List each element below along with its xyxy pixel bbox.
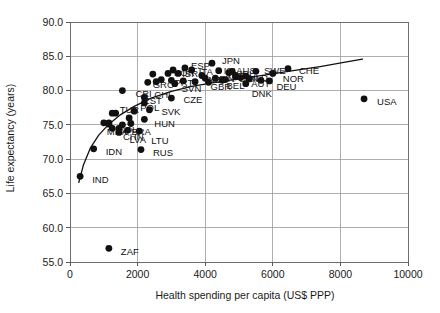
- data-point: [146, 106, 153, 113]
- data-point-label: DNK: [252, 88, 273, 99]
- data-point: [77, 173, 84, 180]
- data-point: [90, 145, 97, 152]
- data-point-label: EST: [143, 95, 162, 106]
- y-tick-label: 55.0: [43, 256, 64, 268]
- data-point: [361, 95, 368, 102]
- data-point: [209, 60, 216, 67]
- data-point: [215, 67, 222, 74]
- data-point-label: IDN: [106, 146, 123, 157]
- data-point: [237, 74, 244, 81]
- x-tick-label: 2000: [126, 268, 150, 280]
- data-point: [219, 77, 226, 84]
- data-point-label: IND: [92, 174, 109, 185]
- data-point-label: ISR: [182, 68, 198, 79]
- y-tick-label: 80.0: [43, 84, 64, 96]
- data-points: INDZAFIDNRUSCOLCHNTURPOLLVALTUBRAMEXHUNS…: [77, 55, 398, 257]
- x-tick-label: 0: [67, 268, 73, 280]
- data-point: [105, 245, 112, 252]
- data-point: [258, 77, 265, 84]
- data-point: [109, 110, 116, 117]
- data-point: [242, 80, 249, 87]
- data-point-label: USA: [377, 96, 397, 107]
- data-point: [127, 120, 134, 127]
- data-point: [170, 67, 177, 74]
- data-point: [100, 119, 107, 126]
- y-tick-label: 70.0: [43, 153, 64, 165]
- data-point-label: CHE: [299, 65, 319, 76]
- x-axis-ticks: 0200040006000800010000: [67, 262, 423, 280]
- data-point: [144, 79, 151, 86]
- y-tick-label: 85.0: [43, 50, 64, 62]
- data-point: [131, 108, 138, 115]
- y-tick-label: 75.0: [43, 119, 64, 131]
- scatter-chart-figure: 55.060.065.070.075.080.085.090.0 0200040…: [0, 0, 440, 313]
- data-point-label: RUS: [153, 147, 173, 158]
- y-axis-title: Life expectancy (years): [4, 84, 16, 193]
- data-point-label: HUN: [154, 118, 175, 129]
- x-tick-label: 6000: [261, 268, 285, 280]
- data-point: [141, 116, 148, 123]
- data-point: [116, 129, 123, 136]
- data-point: [198, 72, 205, 79]
- data-point-label: BRA: [131, 126, 151, 137]
- x-tick-label: 8000: [329, 268, 353, 280]
- data-point: [149, 71, 156, 78]
- data-point-label: BEL: [226, 80, 244, 91]
- data-point: [285, 65, 292, 72]
- data-point-label: SVK: [161, 106, 181, 117]
- data-point: [266, 78, 273, 85]
- x-tick-label: 10000: [393, 268, 422, 280]
- chart-canvas: 55.060.065.070.075.080.085.090.0 0200040…: [0, 0, 440, 313]
- data-point: [192, 78, 199, 85]
- data-point: [119, 87, 126, 94]
- y-tick-label: 65.0: [43, 187, 64, 199]
- data-point: [158, 76, 165, 83]
- data-point-label: CZE: [183, 94, 202, 105]
- data-point-label: LTU: [151, 135, 168, 146]
- y-tick-label: 90.0: [43, 16, 64, 28]
- data-point: [253, 68, 260, 75]
- x-axis-title: Health spending per capita (US$ PPP): [155, 289, 334, 301]
- data-point: [109, 125, 116, 132]
- data-point: [138, 146, 145, 153]
- data-point: [180, 78, 187, 85]
- y-axis-ticks: 55.060.065.070.075.080.085.090.0: [43, 16, 70, 268]
- data-point-label: ZAF: [121, 246, 139, 257]
- data-point: [269, 70, 276, 77]
- x-tick-label: 4000: [194, 268, 218, 280]
- y-tick-label: 60.0: [43, 222, 64, 234]
